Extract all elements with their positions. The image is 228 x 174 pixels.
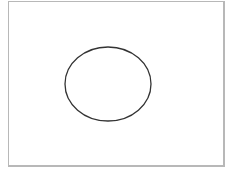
ellipse-shape[interactable] — [65, 47, 151, 121]
shape-layer — [0, 0, 228, 174]
